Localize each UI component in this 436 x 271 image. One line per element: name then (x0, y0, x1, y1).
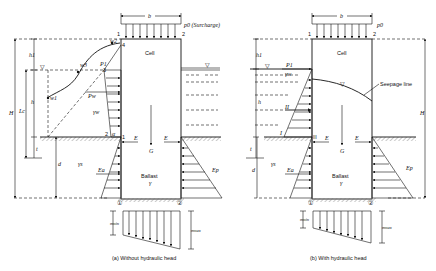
alpha-label: α (112, 131, 116, 137)
wall-1-label: ① (117, 200, 122, 206)
ballast-gamma-label-b: γ (340, 180, 343, 186)
point-1-label: 1 (122, 134, 125, 140)
base-pressure-diagram-b (300, 211, 385, 243)
roman-II-label: II (284, 104, 290, 110)
gamma-s-label: γs (78, 161, 83, 167)
height-h1-label-b: h1 (256, 52, 262, 58)
water-level-icon-right: ▽ (205, 62, 210, 68)
w1-label: w1 (50, 95, 57, 101)
sigma-min-label: σmin (110, 221, 120, 226)
corner-1-label-b: 1 (308, 31, 311, 37)
height-h1-label: h1 (29, 52, 35, 58)
right-water-body (181, 68, 220, 125)
caption-b: (b) With hydraulic head (310, 255, 367, 261)
Ea-label-b: Ea (286, 167, 294, 173)
w3-label: w3 (80, 62, 87, 68)
surcharge-label: p0 (Surcharge) (183, 22, 220, 29)
wall-2-label: ② (177, 200, 182, 206)
caption-a: (a) Without hydraulic head (112, 255, 176, 261)
surcharge-label-b: p0 (376, 22, 383, 28)
point-2-label: 2 (105, 131, 108, 137)
roman-III-label: III (313, 135, 317, 140)
E-left-label-b: E (324, 135, 329, 141)
roman-I-label: I (279, 130, 283, 136)
Ep-label: Ep (211, 167, 219, 173)
gamma-s-label-b: γs (271, 161, 276, 167)
point-3-label: 3 (103, 67, 106, 73)
corner-1-label: 1 (117, 31, 120, 37)
G-label-b: G (340, 148, 345, 154)
cofferdam-cell-diagram: b p0 (Surcharge) 1 2 Cell ▽ w1 w (0, 0, 436, 271)
ballast-label: Ballast (141, 173, 158, 179)
E-right-label-b: E (354, 135, 359, 141)
depth-d-label-b: d (252, 167, 256, 173)
slip-curve (47, 43, 120, 98)
ballast-gamma-label: γ (149, 180, 152, 186)
gamma-w-label-b: γw (285, 71, 291, 77)
width-label-b: b (340, 13, 343, 19)
height-h-label-b: h (258, 99, 261, 105)
height-Lc-label: Lc (18, 108, 25, 114)
ballast-label-b: Ballast (332, 173, 349, 179)
wall-1-label-b: ① (308, 200, 313, 206)
surcharge-arrows (121, 24, 181, 38)
pw-label: Pw (87, 93, 96, 99)
p1-label-b: P1 (285, 62, 293, 68)
point-4-label: 4 (122, 42, 125, 48)
cell-label-b: Cell (337, 50, 346, 56)
sigma-max-label: σmax (191, 228, 201, 233)
gamma-w-label: γw (93, 109, 99, 115)
corner-2-label-b: 2 (373, 31, 376, 37)
wall-2-label-b: ② (368, 200, 373, 206)
Ep-label-b: Ep (405, 165, 413, 171)
water-pressure-diagram (104, 70, 121, 137)
height-H-label-b: H (419, 110, 425, 116)
panel-b-with-hydraulic-head: b p0 1 2 Cell ▽ P1 γw (246, 11, 425, 261)
E-right-label: E (163, 135, 168, 141)
sigma-max-label-b: σmax (382, 225, 392, 230)
water-level-icon-b: ▽ (265, 63, 270, 69)
sigma-min-label-b: σmin (300, 217, 310, 222)
seepage-line-label: Seepage line (380, 81, 412, 87)
surcharge-arrows-b (312, 24, 372, 38)
w2-label: w2 (110, 38, 117, 44)
corner-2-label: 2 (182, 31, 185, 37)
cell-label: Cell (145, 50, 154, 56)
E-left-label: E (133, 135, 138, 141)
height-H-label: H (8, 110, 14, 116)
Ea-label: Ea (97, 167, 105, 173)
width-label: b (148, 13, 151, 19)
left-water-body (250, 69, 312, 125)
depth-t-label: t (36, 146, 38, 152)
base-pressure-diagram (110, 211, 194, 249)
height-h-label: h (31, 99, 34, 105)
panel-a-without-hydraulic-head: b p0 (Surcharge) 1 2 Cell ▽ w1 w (8, 11, 222, 261)
G-label: G (149, 148, 154, 154)
depth-t-label-b: t (250, 146, 252, 152)
water-level-icon: ▽ (40, 64, 45, 70)
depth-d-label: d (58, 161, 62, 167)
seepage-water-icon: ▽ (340, 81, 345, 87)
